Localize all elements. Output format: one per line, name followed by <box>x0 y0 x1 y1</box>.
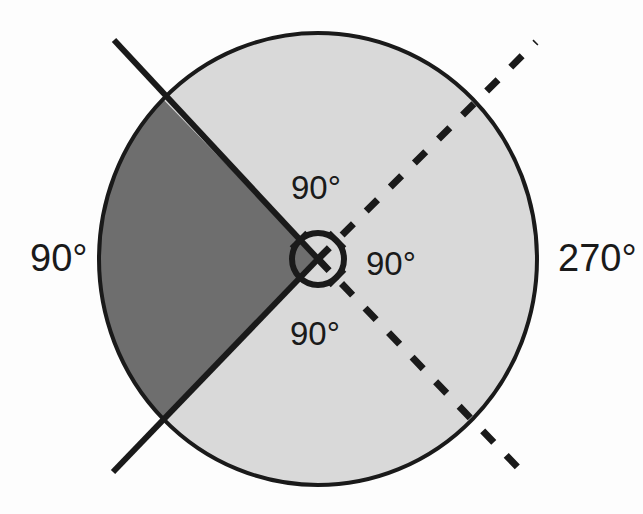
label-inner-bottom-90: 90° <box>290 315 340 352</box>
label-inner-top-90: 90° <box>291 169 341 206</box>
figure-root: 90° 270° 90° 90° 90° <box>0 0 643 514</box>
label-inner-right-90: 90° <box>366 245 416 282</box>
label-light-sector-270: 270° <box>558 237 637 279</box>
circle-angle-diagram: 90° 270° 90° 90° 90° <box>0 0 643 514</box>
label-dark-sector-90: 90° <box>30 237 87 279</box>
